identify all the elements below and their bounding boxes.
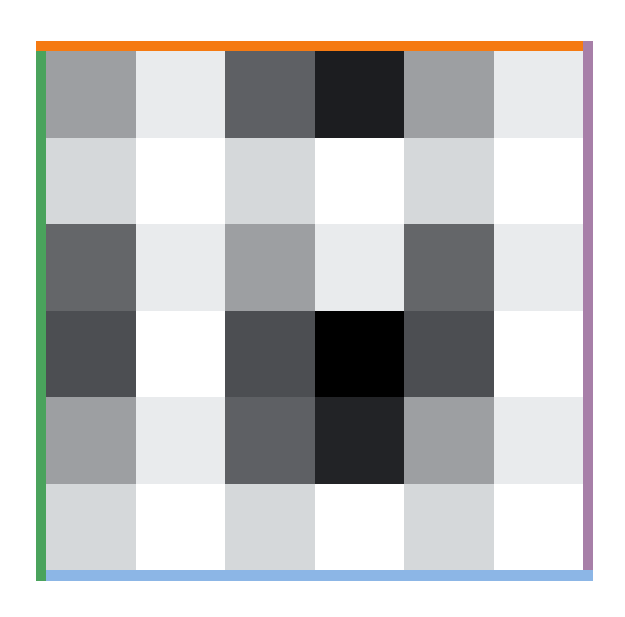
heatmap-cell	[494, 138, 584, 225]
heatmap-cell	[315, 311, 405, 398]
heatmap-cell	[404, 224, 494, 311]
heatmap-cell	[46, 51, 136, 138]
heatmap-cell	[136, 51, 226, 138]
heatmap-cell	[494, 51, 584, 138]
top-border-bar	[36, 41, 583, 51]
left-border-bar	[36, 51, 46, 581]
heatmap-cell	[225, 224, 315, 311]
heatmap-cell	[136, 138, 226, 225]
heatmap-cell	[225, 484, 315, 571]
heatmap-cell	[136, 484, 226, 571]
heatmap-cell	[494, 224, 584, 311]
heatmap-cell	[136, 311, 226, 398]
heatmap-cell	[225, 51, 315, 138]
heatmap-cell	[494, 397, 584, 484]
heatmap-cell	[404, 397, 494, 484]
heatmap-cell	[136, 397, 226, 484]
heatmap-cell	[225, 397, 315, 484]
heatmap-cell	[404, 138, 494, 225]
heatmap-cell	[315, 138, 405, 225]
heatmap-cell	[225, 311, 315, 398]
heatmap-cell	[315, 224, 405, 311]
heatmap-cell	[46, 397, 136, 484]
heatmap-frame	[36, 41, 593, 581]
heatmap-cell	[404, 484, 494, 571]
right-border-bar	[583, 41, 593, 570]
heatmap-cell	[46, 224, 136, 311]
heatmap-cell	[404, 51, 494, 138]
heatmap-cell	[315, 397, 405, 484]
heatmap-cell	[46, 484, 136, 571]
bottom-border-bar	[46, 570, 593, 581]
heatmap-cell	[46, 138, 136, 225]
heatmap-cell	[315, 51, 405, 138]
heatmap-grid	[46, 51, 583, 570]
heatmap-cell	[494, 484, 584, 571]
heatmap-cell	[494, 311, 584, 398]
heatmap-cell	[315, 484, 405, 571]
heatmap-cell	[225, 138, 315, 225]
heatmap-cell	[136, 224, 226, 311]
heatmap-cell	[46, 311, 136, 398]
heatmap-cell	[404, 311, 494, 398]
